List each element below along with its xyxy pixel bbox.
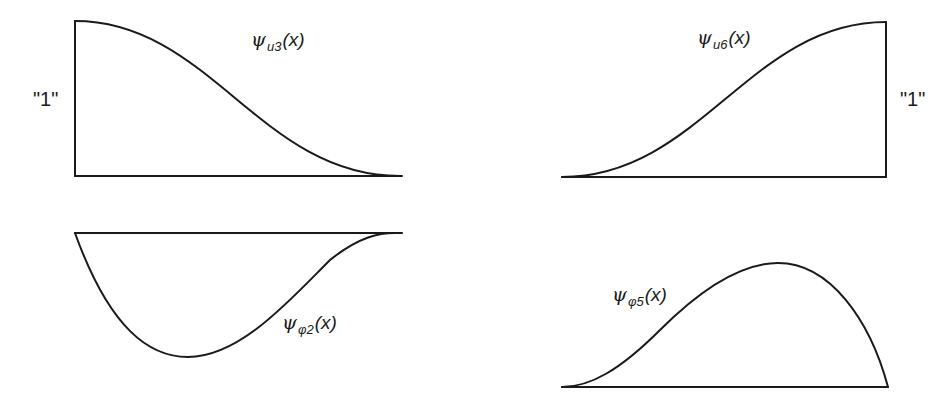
curve-psi-phi5 — [562, 263, 888, 387]
argument: (x) — [282, 29, 304, 50]
subscript: φ2 — [298, 322, 314, 337]
label-psi-phi2: ψφ2(x) — [282, 313, 337, 332]
label-psi-u6: ψu6(x) — [697, 28, 751, 47]
psi-symbol: ψ — [697, 26, 712, 48]
curve-psi-u3 — [75, 21, 400, 176]
unit-label-left: "1" — [33, 89, 58, 109]
shape-functions-diagram — [0, 0, 949, 400]
label-psi-phi5: ψφ5(x) — [612, 285, 667, 304]
argument: (x) — [315, 312, 337, 333]
subscript: u6 — [713, 37, 727, 52]
psi-symbol: ψ — [282, 311, 297, 333]
subscript: u3 — [267, 39, 281, 54]
argument: (x) — [645, 284, 667, 305]
psi-symbol: ψ — [612, 283, 627, 305]
curve-psi-phi2 — [75, 233, 395, 357]
panel-top-left-psi-u3 — [75, 21, 402, 176]
subscript: φ5 — [628, 294, 644, 309]
panel-bottom-left-psi-phi2 — [75, 233, 402, 357]
unit-label-right: "1" — [900, 89, 925, 109]
psi-symbol: ψ — [251, 28, 266, 50]
argument: (x) — [728, 27, 750, 48]
panel-bottom-right-psi-phi5 — [562, 263, 888, 387]
label-psi-u3: ψu3(x) — [251, 30, 305, 49]
